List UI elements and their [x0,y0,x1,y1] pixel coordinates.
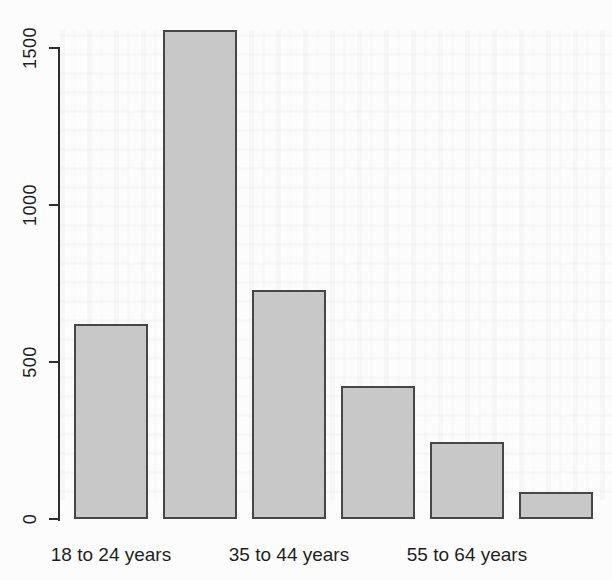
bar-2 [163,30,237,519]
bar-4 [341,386,415,519]
bar-6 [519,492,593,519]
y-tick-mark [49,47,58,49]
y-tick-label: 0 [20,514,41,525]
scanned-chart-page: 050010001500 18 to 24 years35 to 44 year… [0,0,612,580]
x-tick-label: 18 to 24 years [51,544,171,566]
bar-1 [74,324,148,519]
y-tick-label: 1000 [20,184,41,226]
x-tick-label: 55 to 64 years [407,544,527,566]
bar-chart: 050010001500 18 to 24 years35 to 44 year… [0,0,612,580]
bar-3 [252,290,326,519]
y-tick-mark [49,518,58,520]
y-tick-mark [49,361,58,363]
y-tick-label: 500 [20,346,41,378]
y-tick-mark [49,204,58,206]
bar-5 [430,442,504,519]
y-tick-label: 1500 [20,27,41,69]
plot-area [59,17,608,519]
x-tick-label: 35 to 44 years [229,544,349,566]
